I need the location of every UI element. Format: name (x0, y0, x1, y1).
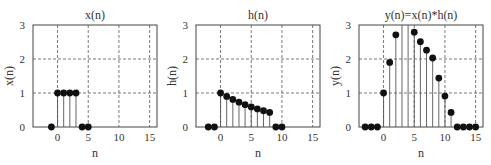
stem-marker (448, 109, 455, 116)
stem-marker (54, 90, 61, 97)
stem-marker (417, 38, 424, 45)
y-axis-label: x(n) (2, 66, 16, 86)
stem-marker (392, 31, 399, 38)
chart-title: x(n) (85, 8, 105, 22)
stem-marker (272, 124, 279, 131)
x-tick-label: 0 (55, 131, 61, 143)
stem-marker (435, 75, 442, 82)
x-axis-label: n (255, 146, 261, 160)
x-axis-label: n (418, 146, 424, 160)
y-tick-label: 1 (183, 87, 189, 99)
x-tick-label: 0 (218, 131, 224, 143)
stem-marker (386, 59, 393, 66)
stem-marker (279, 124, 286, 131)
y-tick-label: 1 (20, 87, 26, 99)
stem-marker (248, 104, 255, 111)
y-tick-label: 0 (346, 121, 352, 133)
y-axis-label: h(n) (165, 66, 179, 86)
x-tick-label: 15 (470, 131, 482, 143)
stem-marker (79, 124, 86, 131)
y-tick-label: 2 (183, 53, 189, 65)
stem-marker (85, 124, 92, 131)
stem-marker (380, 90, 387, 97)
stem-marker (472, 124, 479, 131)
y-tick-label: 2 (20, 53, 26, 65)
stem-marker (229, 96, 236, 103)
x-tick-label: 5 (248, 131, 254, 143)
stem-marker (73, 90, 80, 97)
x-tick-label: 0 (381, 131, 387, 143)
stem-marker (374, 124, 381, 131)
stem-marker (223, 93, 230, 100)
stem-marker (454, 124, 461, 131)
y-tick-label: 0 (183, 121, 189, 133)
stem-series (58, 93, 76, 127)
plot-h-svg: 0510150123h(n)nh(n) (163, 0, 328, 165)
plot-h: 0510150123h(n)nh(n) (163, 0, 328, 165)
x-tick-label: 5 (411, 131, 417, 143)
y-tick-label: 3 (346, 19, 352, 31)
x-tick-label: 10 (113, 131, 125, 143)
stem-marker (48, 124, 55, 131)
plot-x: 0510150123x(n)nx(n) (0, 0, 165, 165)
chart-title: y(n)=x(n)*h(n) (385, 8, 458, 22)
stem-marker (205, 124, 212, 131)
y-axis-label: y(n) (328, 66, 342, 86)
x-tick-label: 10 (276, 131, 288, 143)
stem-marker (254, 106, 261, 113)
y-tick-label: 0 (20, 121, 26, 133)
stem-marker (260, 107, 267, 114)
stem-marker (423, 47, 430, 54)
x-tick-label: 15 (144, 131, 156, 143)
stem-marker (411, 29, 418, 36)
stem-series (384, 10, 452, 127)
x-axis-label: n (92, 146, 98, 160)
x-tick-label: 10 (439, 131, 451, 143)
plot-frame (33, 25, 157, 127)
stem-marker (460, 124, 467, 131)
x-tick-label: 15 (307, 131, 319, 143)
stem-marker (66, 90, 73, 97)
stem-marker (368, 124, 375, 131)
plot-x-svg: 0510150123x(n)nx(n) (0, 0, 165, 165)
stem-marker (236, 99, 243, 106)
stem-marker (429, 55, 436, 62)
plot-y-svg: 0510150123y(n)=x(n)*h(n)ny(n) (326, 0, 491, 165)
chart-title: h(n) (248, 8, 268, 22)
stem-marker (217, 90, 224, 97)
y-tick-label: 3 (20, 19, 26, 31)
stem-marker (442, 93, 449, 100)
x-tick-label: 5 (85, 131, 91, 143)
y-tick-label: 2 (346, 53, 352, 65)
y-tick-label: 1 (346, 87, 352, 99)
y-tick-label: 3 (183, 19, 189, 31)
stem-marker (466, 124, 473, 131)
stem-marker (362, 124, 369, 131)
stem-marker (266, 109, 273, 116)
stem-marker (60, 90, 67, 97)
stem-marker (211, 124, 218, 131)
stem-marker (242, 101, 249, 108)
plot-y: 0510150123y(n)=x(n)*h(n)ny(n) (326, 0, 491, 165)
